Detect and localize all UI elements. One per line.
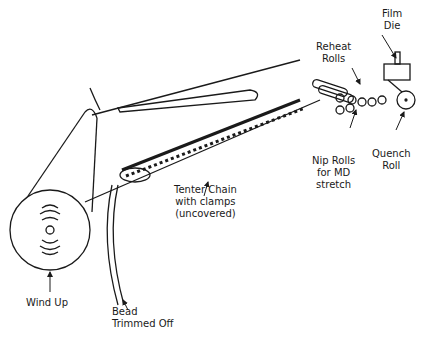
label-wind-up: Wind Up	[26, 297, 68, 309]
label-reheat-rolls: Reheat Rolls	[316, 41, 351, 65]
film-die	[384, 52, 410, 92]
tenter-chain	[120, 100, 305, 182]
wind-up-roll	[10, 109, 97, 270]
roll-stack	[312, 79, 386, 114]
label-tenter-chain: Tenter Chain with clamps (uncovered)	[174, 184, 237, 220]
label-film-die: Film Die	[382, 8, 402, 32]
label-quench-roll: Quench Roll	[372, 148, 411, 172]
diagram-drawing	[0, 0, 426, 344]
label-nip-rolls: Nip Rolls for MD stretch	[312, 155, 355, 191]
label-bead-trimmed: Bead Trimmed Off	[112, 306, 173, 330]
